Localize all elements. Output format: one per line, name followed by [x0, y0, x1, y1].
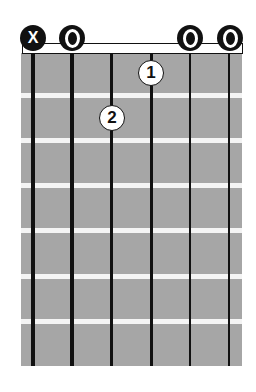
fret-line-6 [21, 319, 242, 324]
string-4 [150, 53, 153, 366]
string-5 [189, 53, 191, 366]
finger-number: 1 [146, 63, 155, 83]
open-string-marker [217, 25, 243, 51]
string-6 [228, 53, 230, 366]
fret-line-5 [21, 274, 242, 279]
fret-line-4 [21, 228, 242, 233]
string-2 [70, 53, 74, 366]
marker-label: X [28, 29, 39, 47]
open-string-marker [59, 25, 85, 51]
nut [22, 43, 243, 54]
fret-line-2 [21, 138, 242, 143]
fret-line-3 [21, 183, 242, 188]
muted-string-marker: X [20, 25, 46, 51]
open-string-marker [177, 25, 203, 51]
string-3 [110, 53, 113, 366]
fret-line-1 [21, 93, 242, 98]
finger-dot-1: 1 [138, 60, 164, 86]
string-1 [31, 53, 35, 366]
finger-dot-2: 2 [99, 105, 125, 131]
finger-number: 2 [107, 108, 116, 128]
